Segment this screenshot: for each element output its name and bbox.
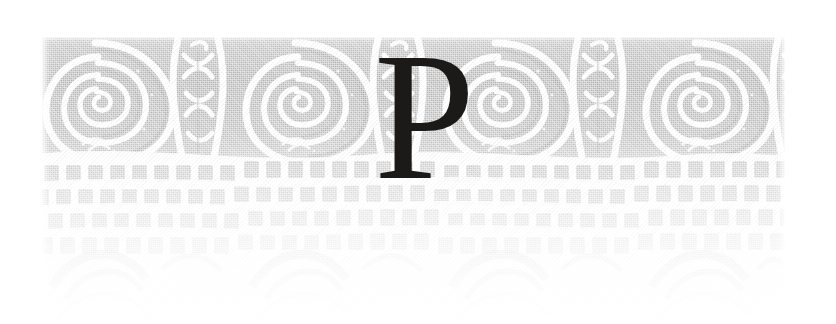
ornament-arc-band xyxy=(52,254,785,321)
decorated-chapter-opening-page: P xyxy=(0,0,836,324)
drop-cap-letter-p: P xyxy=(374,34,454,199)
